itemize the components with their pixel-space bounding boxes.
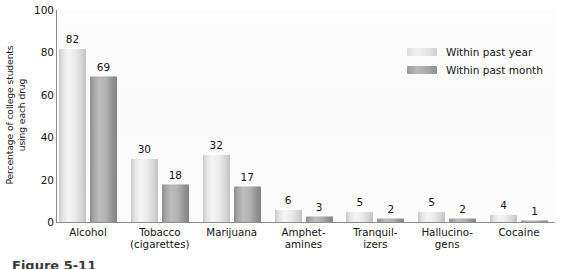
bar-value-label: 17	[240, 171, 253, 183]
bar-within-past-month	[234, 186, 261, 222]
y-tick-label: 0	[28, 216, 54, 228]
x-axis-category-label-line: Marijuana	[206, 227, 257, 239]
x-axis-category-label-line: izers	[353, 239, 397, 251]
bar-value-label: 2	[459, 203, 466, 215]
bar-within-past-year	[418, 211, 445, 222]
x-axis-category-label-line: Alcohol	[69, 227, 107, 239]
plot-area	[57, 10, 555, 222]
legend-label: Within past year	[446, 46, 532, 58]
bar-within-past-month	[449, 218, 476, 222]
x-axis-category-label: Cocaine	[498, 227, 539, 239]
legend-swatch-icon	[407, 48, 437, 56]
bar-within-past-year	[346, 211, 373, 222]
bar-within-past-month	[90, 76, 117, 222]
bar-value-label: 1	[531, 205, 538, 217]
bar-within-past-year	[59, 48, 86, 222]
x-axis-category-label-line: gens	[421, 239, 473, 251]
chart-legend: Within past yearWithin past month	[407, 44, 543, 80]
bar-within-past-month	[162, 184, 189, 222]
x-axis-category-label: Tranquil-izers	[353, 227, 397, 251]
x-axis-category-label-line: (cigarettes)	[130, 239, 190, 251]
bar-within-past-year	[490, 214, 517, 222]
x-axis-category-label: Amphet-amines	[281, 227, 325, 251]
bar-within-past-year	[275, 209, 302, 222]
bar-within-past-year	[203, 154, 230, 222]
bar-value-label: 2	[387, 203, 394, 215]
y-axis-tick-labels: 020406080100	[26, 0, 54, 269]
x-axis-line	[56, 222, 555, 223]
bar-value-label: 3	[316, 201, 323, 213]
legend-item: Within past month	[407, 62, 543, 77]
bar-value-label: 4	[500, 199, 507, 211]
x-axis-category-label: Alcohol	[69, 227, 107, 239]
legend-item: Within past year	[407, 44, 543, 59]
x-axis-category-label-line: Cocaine	[498, 227, 539, 239]
y-tick-label: 20	[28, 174, 54, 186]
x-axis-category-label: Hallucino-gens	[421, 227, 473, 251]
bar-within-past-month	[306, 216, 333, 222]
legend-swatch-icon	[407, 66, 437, 74]
x-axis-category-label-line: amines	[281, 239, 325, 251]
x-axis-category-label: Marijuana	[206, 227, 257, 239]
y-tick-label: 80	[28, 46, 54, 58]
figure-caption: Figure 5-11	[12, 258, 96, 269]
y-tick-label: 40	[28, 131, 54, 143]
bar-value-label: 30	[138, 143, 151, 155]
bar-value-label: 18	[169, 169, 182, 181]
legend-label: Within past month	[446, 64, 543, 76]
bar-value-label: 69	[97, 61, 110, 73]
x-axis-category-label: Tobacco(cigarettes)	[130, 227, 190, 251]
y-axis-title-line-2: using each drug	[15, 45, 27, 184]
bar-value-label: 82	[66, 33, 79, 45]
bar-value-label: 32	[209, 139, 222, 151]
y-tick-label: 60	[28, 89, 54, 101]
y-tick-label: 100	[28, 4, 54, 16]
y-axis-title-line-1: Percentage of college students	[4, 45, 16, 184]
bar-chart-figure: Percentage of college students using eac…	[0, 0, 573, 269]
bar-value-label: 6	[285, 194, 292, 206]
bar-value-label: 5	[356, 196, 363, 208]
bar-within-past-month	[521, 220, 548, 222]
bar-within-past-month	[377, 218, 404, 222]
bar-value-label: 5	[428, 196, 435, 208]
bar-within-past-year	[131, 158, 158, 222]
